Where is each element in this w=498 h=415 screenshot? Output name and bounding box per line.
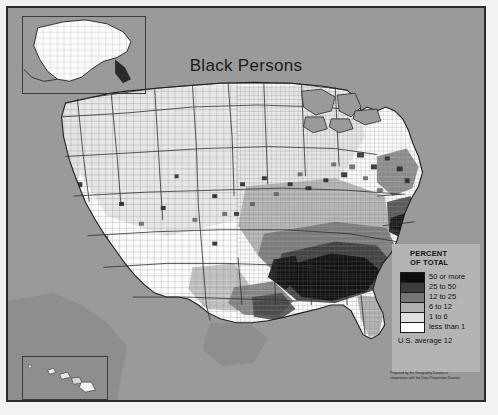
legend-label-12-to-25: 12 to 25	[429, 292, 465, 302]
credit-line-2: cooperation with the Data Preparation Di…	[390, 376, 478, 380]
legend-average-note: U.S. average 12	[398, 336, 476, 345]
map-frame: Black Persons PERCENT OF TOTAL 50 or mor…	[6, 6, 486, 402]
legend-swatch-25-to-50	[401, 283, 424, 293]
legend-swatch-6-to-12	[401, 303, 424, 313]
legend-title: PERCENT OF TOTAL	[410, 249, 476, 267]
legend-swatch-column	[400, 272, 425, 333]
legend-panel: PERCENT OF TOTAL 50 or more 25 to 50 12 …	[392, 244, 480, 372]
alaska-inset-frame	[22, 16, 146, 94]
legend-label-6-to-12: 6 to 12	[429, 302, 465, 312]
legend-swatch-50-or-more	[401, 273, 424, 283]
legend-swatch-less-than-1	[401, 323, 424, 332]
legend-label-column: 50 or more 25 to 50 12 to 25 6 to 12 1 t…	[429, 272, 465, 333]
legend-label-1-to-6: 1 to 6	[429, 312, 465, 322]
hawaii-inset-frame	[22, 356, 108, 400]
legend-swatch-12-to-25	[401, 293, 424, 303]
credit-block: Prepared by the Geography Division in co…	[390, 371, 478, 380]
legend-label-25-to-50: 25 to 50	[429, 282, 465, 292]
legend-label-less-than-1: less than 1	[429, 322, 465, 332]
map-page: Black Persons PERCENT OF TOTAL 50 or mor…	[0, 0, 498, 415]
legend-rows: 50 or more 25 to 50 12 to 25 6 to 12 1 t…	[400, 272, 476, 333]
legend-label-50-or-more: 50 or more	[429, 272, 465, 282]
legend-swatch-1-to-6	[401, 313, 424, 323]
